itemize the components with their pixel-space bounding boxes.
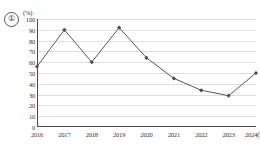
y-axis-tick-label: 50 — [29, 70, 35, 77]
plot-area: 0102030405060708090100 20162017201820192… — [37, 19, 256, 127]
x-axis-tick-label: 2023 — [223, 131, 235, 139]
y-axis-tick-label: 20 — [29, 102, 35, 109]
x-axis-tick-label: 2022 — [195, 131, 207, 139]
x-axis-tick-label: 2019 — [113, 131, 125, 139]
x-axis-tick-label: 2018 — [86, 131, 98, 139]
y-axis-tick-label: 30 — [29, 91, 35, 98]
x-axis-tick-label: 2017 — [58, 131, 70, 139]
y-axis-tick-label: 70 — [29, 48, 35, 55]
y-axis-tick-label: 90 — [29, 26, 35, 33]
y-axis-tick-label: 40 — [29, 80, 35, 87]
series-line-chart — [37, 19, 256, 127]
x-axis-tick-label: 2020 — [140, 131, 152, 139]
x-axis-tick-label: 2024(년) — [245, 131, 260, 139]
x-axis-tick-label: 2016 — [31, 131, 43, 139]
series-line — [37, 28, 256, 96]
y-axis-tick-label: 0 — [32, 124, 35, 131]
data-point-marker — [199, 88, 203, 92]
chart-figure: ① (%) 0102030405060708090100 20162017201… — [0, 0, 260, 153]
y-axis-tick-label: 60 — [29, 59, 35, 66]
x-axis-tick-label: 2021 — [168, 131, 180, 139]
y-axis-tick-label: 80 — [29, 37, 35, 44]
y-axis-tick-label: 10 — [29, 113, 35, 120]
y-axis-tick-label: 100 — [26, 16, 35, 23]
figure-number-badge: ① — [4, 12, 19, 27]
